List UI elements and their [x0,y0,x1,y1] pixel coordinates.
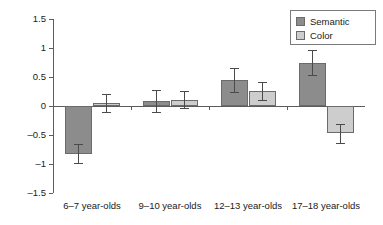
error-bar-cap [152,90,161,91]
legend-swatch-color [296,31,305,40]
y-axis-tick-label: –0.5 [2,130,46,140]
error-bar-cap [230,92,239,93]
y-axis-ticks: 1.510.50–0.5–1–1.5 [0,0,46,225]
legend-swatch-semantic [296,17,305,26]
y-axis-tick-label: –1.5 [2,188,46,198]
y-axis-tick [49,48,53,49]
y-axis-tick-label: –1 [2,159,46,169]
error-bar-cap [308,50,317,51]
x-axis-tick [53,106,54,110]
x-axis-category-label: 6–7 year-olds [53,200,131,211]
x-axis-tick [209,106,210,110]
error-bar-cap [308,75,317,76]
error-bar-cap [74,144,83,145]
x-axis-tick [131,106,132,110]
error-bar [312,50,313,74]
error-bar [262,82,263,101]
legend-label-semantic: Semantic [310,17,350,27]
error-bar-cap [152,112,161,113]
y-axis-tick [49,193,53,194]
x-axis-category-label: 9–10 year-olds [131,200,209,211]
error-bar [234,68,235,92]
error-bar-cap [74,163,83,164]
x-axis-category-label: 12–13 year-olds [209,200,287,211]
error-bar-cap [336,143,345,144]
y-axis-tick [49,19,53,20]
error-bar [340,124,341,143]
error-bar-cap [180,91,189,92]
y-axis-tick-label: 1.5 [2,14,46,24]
legend-label-color: Color [310,31,333,41]
legend: Semantic Color [290,10,376,45]
y-axis-tick-label: 1 [2,43,46,53]
error-bar [184,91,185,108]
x-axis-tick [287,106,288,110]
error-bar-cap [102,94,111,95]
error-bar-cap [258,82,267,83]
legend-item-semantic[interactable]: Semantic [296,15,370,28]
error-bar-cap [230,68,239,69]
y-axis-tick-label: 0.5 [2,72,46,82]
y-axis-tick [49,77,53,78]
error-bar-cap [180,108,189,109]
y-axis-tick [49,164,53,165]
error-bar-cap [336,124,345,125]
error-bar [78,144,79,163]
error-bar-cap [258,100,267,101]
legend-item-color[interactable]: Color [296,29,370,42]
bar-chart: Z scores 1.510.50–0.5–1–1.5 6–7 year-old… [0,0,383,225]
y-axis-tick [49,135,53,136]
error-bar [156,90,157,112]
x-axis-category-label: 17–18 year-olds [287,200,365,211]
error-bar [106,94,107,113]
y-axis-tick-label: 0 [2,101,46,111]
error-bar-cap [102,112,111,113]
